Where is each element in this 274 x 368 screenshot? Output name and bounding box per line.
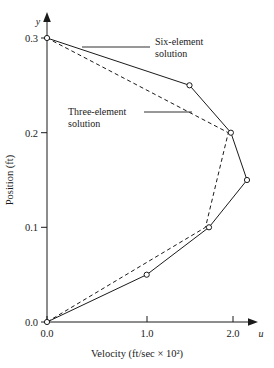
- x-axis-variable-label: u: [259, 328, 264, 339]
- y-tick-label-1: 0.1: [25, 222, 38, 233]
- y-ticks-group: 0.0 0.1 0.2 0.3: [25, 33, 47, 328]
- data-point-marker: [44, 35, 49, 40]
- x-tick-label-2: 2.0: [226, 328, 239, 339]
- data-point-markers: [44, 35, 249, 324]
- y-axis-variable-label: y: [35, 16, 41, 27]
- chart-figure: 0.0 0.1 0.2 0.3 0.0 1.0 2.0 y u Velocity…: [0, 0, 274, 368]
- three-element-label-line1: Three-element: [68, 106, 127, 117]
- data-point-marker: [144, 272, 149, 277]
- data-point-marker: [228, 130, 233, 135]
- x-ticks-group: 0.0 1.0 2.0: [40, 316, 239, 339]
- x-axis-title: Velocity (ft/sec × 10²): [91, 348, 184, 360]
- data-point-marker: [244, 177, 249, 182]
- y-tick-label-2: 0.2: [25, 128, 38, 139]
- x-axis-arrow-icon: [248, 318, 258, 326]
- annotation-three-element: Three-element solution: [68, 106, 192, 129]
- data-point-marker: [187, 83, 192, 88]
- y-axis-title: Position (ft): [4, 154, 16, 205]
- three-element-label-line2: solution: [68, 118, 100, 129]
- axes-group: [43, 12, 258, 326]
- six-element-label-line2: solution: [155, 48, 187, 59]
- velocity-profile-chart: 0.0 0.1 0.2 0.3 0.0 1.0 2.0 y u Velocity…: [0, 0, 274, 368]
- data-point-marker: [44, 319, 49, 324]
- y-tick-label-3: 0.3: [25, 33, 38, 44]
- x-tick-label-1: 1.0: [140, 328, 153, 339]
- data-point-marker: [206, 225, 211, 230]
- x-tick-label-0: 0.0: [40, 328, 53, 339]
- y-tick-label-0: 0.0: [25, 317, 38, 328]
- y-axis-arrow-icon: [43, 12, 51, 22]
- six-element-label-line1: Six-element: [155, 36, 204, 47]
